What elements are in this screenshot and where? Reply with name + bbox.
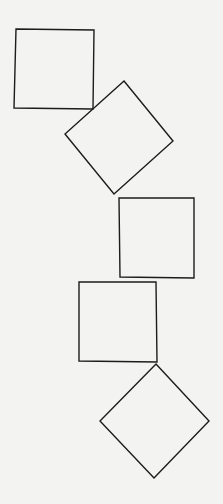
diagram-canvas [0,0,223,504]
background [0,0,223,504]
